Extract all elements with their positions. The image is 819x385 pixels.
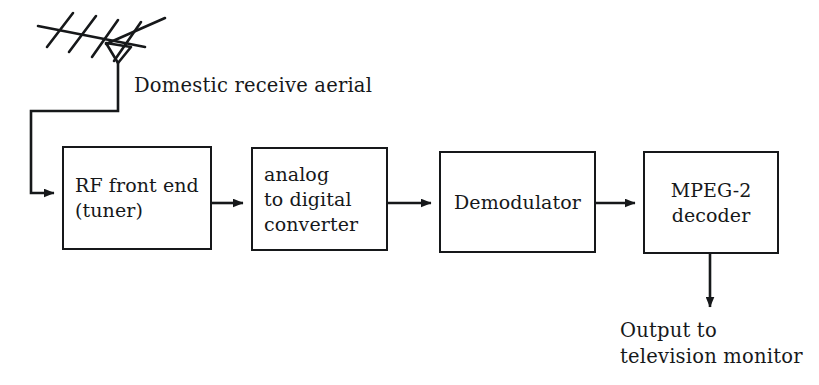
block-rf-front-end: RF front end (tuner): [62, 146, 212, 250]
block-adc-line-1: analog: [264, 162, 329, 187]
block-diagram: RF front end (tuner) analog to digital c…: [0, 0, 819, 385]
block-mpeg-2-decoder-line-2: decoder: [672, 203, 751, 228]
block-mpeg-2-decoder: MPEG-2 decoder: [643, 151, 779, 254]
block-rf-front-end-line-1: RF front end: [75, 173, 199, 198]
tv-antenna-icon: [38, 13, 165, 63]
caption-output-line-1: Output to: [620, 318, 803, 344]
caption-output-line-2: television monitor: [620, 344, 803, 370]
block-adc-line-3: converter: [264, 212, 358, 237]
block-analog-to-digital-converter: analog to digital converter: [251, 147, 388, 251]
block-rf-front-end-line-2: (tuner): [75, 198, 143, 223]
block-adc-line-2: to digital: [264, 187, 352, 212]
caption-output-to-television-monitor: Output to television monitor: [620, 318, 803, 370]
block-demodulator-line-1: Demodulator: [454, 190, 581, 215]
block-demodulator: Demodulator: [439, 151, 596, 253]
block-mpeg-2-decoder-line-1: MPEG-2: [671, 178, 752, 203]
caption-domestic-receive-aerial: Domestic receive aerial: [134, 73, 372, 99]
